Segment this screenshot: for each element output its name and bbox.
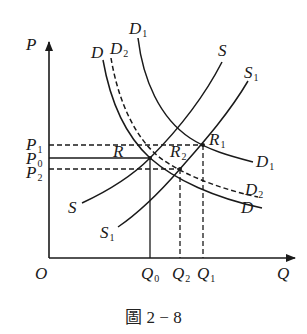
quantity-label-q2: Q2 [172, 265, 190, 284]
demand-curve-d2 [111, 58, 258, 197]
curve-label-d-top: D [91, 44, 103, 61]
figure-caption: 圖 2 − 8 [0, 303, 307, 328]
curve-label-d1-top: D1 [129, 20, 147, 39]
supply-curve-s [82, 62, 222, 203]
quantity-label-q1: Q1 [197, 265, 215, 284]
point-label-r2: R2 [170, 143, 186, 162]
point-r1 [201, 143, 205, 147]
point-r [148, 156, 152, 160]
supply-demand-diagram: P Q O P1 P0 P2 Q0 Q2 Q1 D D2 D1 S S1 D1 … [0, 0, 307, 334]
quantity-label-q0: Q0 [141, 265, 159, 284]
y-axis-label: P [26, 36, 36, 53]
curve-label-d2-top: D2 [110, 40, 128, 59]
curve-label-s1-top: S1 [244, 64, 259, 83]
point-label-r: R [113, 143, 123, 160]
curve-label-s-top: S [218, 42, 227, 59]
origin-label: O [35, 265, 47, 282]
curve-label-s-bottom: S [68, 199, 77, 216]
x-axis-label: Q [277, 265, 289, 282]
point-label-r1: R1 [209, 131, 225, 150]
price-label-p2: P2 [26, 164, 42, 183]
curve-label-s1-bottom: S1 [100, 224, 115, 243]
curve-label-d1-bottom: D1 [256, 153, 274, 172]
demand-curve-d [103, 60, 262, 208]
point-r2 [178, 167, 182, 171]
curve-label-d-bottom: D [241, 199, 253, 216]
